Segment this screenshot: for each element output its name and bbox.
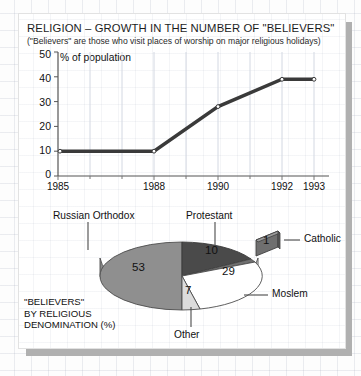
line-chart-plot [19, 50, 345, 202]
slice-value-moslem: 29 [222, 265, 235, 277]
page-title: RELIGION – GROWTH IN THE NUMBER OF "BELI… [27, 22, 334, 34]
page-background: RELIGION – GROWTH IN THE NUMBER OF "BELI… [0, 0, 361, 376]
pie-chart: 53 10 1 29 7 Russian Orthodox Protestant… [19, 200, 345, 348]
slice-value-protestant: 10 [205, 244, 218, 256]
callout-moslem: Moslem [272, 288, 308, 299]
slice-value-russian-orthodox: 53 [132, 261, 145, 273]
slice-value-catholic: 1 [263, 234, 269, 246]
callout-protestant: Protestant [186, 210, 232, 221]
slice-value-other: 7 [185, 284, 191, 296]
line-chart: % of population 50 40 30 20 10 0 1985 19… [19, 50, 345, 202]
line-series-markers [58, 77, 316, 153]
page-subtitle: ("Believers" are those who visit places … [27, 36, 321, 46]
callout-other: Other [174, 329, 199, 340]
denomination-caption: "BELIEVERS" BY RELIGIOUS DENOMINATION (%… [24, 296, 116, 331]
line-series-believers [60, 79, 314, 151]
figure-card: RELIGION – GROWTH IN THE NUMBER OF "BELI… [18, 13, 346, 349]
callout-catholic: Catholic [304, 233, 341, 244]
callout-russian-orthodox: Russian Orthodox [53, 210, 135, 221]
